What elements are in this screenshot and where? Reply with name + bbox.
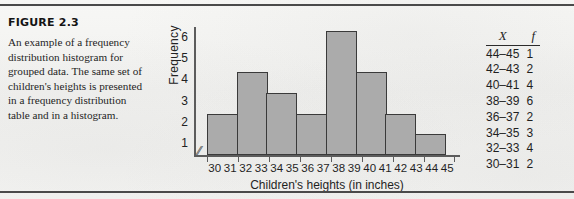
histogram-bar	[237, 72, 268, 155]
table-cell-interval: 40–41	[486, 78, 526, 94]
x-axis-label-pair: 3839	[331, 162, 362, 174]
x-axis-title: Children's heights (in inches)	[194, 178, 460, 192]
table-cell-frequency: 4	[526, 141, 540, 157]
frequency-distribution-table: X f 44–45142–43240–41438–39636–37234–353…	[486, 28, 540, 172]
table-row: 32–334	[486, 141, 540, 157]
y-axis-tick-3: 3	[174, 94, 188, 108]
bottom-divider-rule	[0, 191, 574, 193]
table-cell-frequency: 3	[526, 125, 540, 141]
x-axis-label: 38	[332, 162, 345, 174]
table-cell-frequency: 6	[526, 93, 540, 109]
table-cell-interval: 42–43	[486, 62, 526, 78]
x-axis-label: 37	[317, 162, 330, 174]
table-cell-interval: 38–39	[486, 93, 526, 109]
table-cell-frequency: 2	[526, 62, 540, 78]
x-axis-label: 32	[239, 162, 252, 174]
x-axis-label: 41	[379, 162, 392, 174]
figure-caption-block: FIGURE 2.3 An example of a frequency dis…	[8, 16, 148, 123]
table-cell-frequency: 4	[526, 78, 540, 94]
x-axis-label: 33	[255, 162, 268, 174]
histogram-bar	[415, 134, 446, 155]
y-axis-tick-5: 5	[174, 51, 188, 65]
y-axis-tick-4: 4	[174, 72, 188, 86]
x-axis-label: 45	[441, 162, 454, 174]
y-axis-tick-2: 2	[174, 115, 188, 129]
table-cell-frequency: 2	[526, 156, 540, 172]
y-axis-tick-1: 1	[174, 136, 188, 150]
x-axis-label-pair: 4445	[424, 162, 455, 174]
table-cell-interval: 36–37	[486, 109, 526, 125]
x-axis-label-pair: 4041	[362, 162, 393, 174]
table-cell-interval: 34–35	[486, 125, 526, 141]
x-axis-label-pair: 3233	[238, 162, 269, 174]
histogram-bar	[385, 114, 416, 155]
x-axis-label: 40	[363, 162, 376, 174]
y-axis-line	[194, 27, 196, 156]
table-cell-interval: 30–31	[486, 156, 526, 172]
histogram-bar	[296, 114, 327, 155]
table-row: 34–353	[486, 125, 540, 141]
top-divider-rule	[0, 4, 574, 6]
x-axis-label: 34	[270, 162, 283, 174]
frequency-histogram: Frequency 654321 ⁄⁄ 30313233343536373839…	[150, 14, 470, 196]
table-row: 30–312	[486, 156, 540, 172]
x-axis-label: 35	[286, 162, 299, 174]
table-cell-interval: 44–45	[486, 46, 526, 62]
x-axis-label-pair: 3637	[300, 162, 331, 174]
histogram-bar	[207, 114, 238, 155]
x-axis-label: 42	[394, 162, 407, 174]
table-row: 36–372	[486, 109, 540, 125]
x-axis-label: 44	[425, 162, 438, 174]
x-axis-tick-labels: 30313233343536373839404142434445	[207, 162, 455, 174]
x-axis-label: 30	[208, 162, 221, 174]
figure-number-label: FIGURE 2.3	[8, 16, 148, 29]
table-header-row: X f	[486, 28, 540, 46]
histogram-bar	[356, 72, 387, 155]
column-header-x: X	[486, 28, 526, 46]
x-axis-label-pair: 3031	[207, 162, 238, 174]
table-row: 42–432	[486, 62, 540, 78]
axis-break-icon: ⁄⁄	[198, 144, 200, 157]
table-row: 44–451	[486, 46, 540, 62]
histogram-bars	[207, 31, 445, 155]
x-axis-label: 39	[348, 162, 361, 174]
y-axis-tick-6: 6	[174, 30, 188, 44]
table-row: 40–414	[486, 78, 540, 94]
table-cell-frequency: 1	[526, 46, 540, 62]
x-axis-label: 43	[410, 162, 423, 174]
figure-caption-text: An example of a frequency distribution h…	[8, 35, 148, 123]
x-axis-label: 31	[224, 162, 237, 174]
column-header-f: f	[526, 28, 540, 46]
x-axis-label-pair: 3435	[269, 162, 300, 174]
x-axis-label: 36	[301, 162, 314, 174]
histogram-bar	[266, 93, 297, 155]
x-axis-label-pair: 4243	[393, 162, 424, 174]
table-cell-frequency: 2	[526, 109, 540, 125]
figure-page: FIGURE 2.3 An example of a frequency dis…	[0, 0, 574, 199]
histogram-bar	[326, 31, 357, 155]
table-row: 38–396	[486, 93, 540, 109]
table-cell-interval: 32–33	[486, 141, 526, 157]
